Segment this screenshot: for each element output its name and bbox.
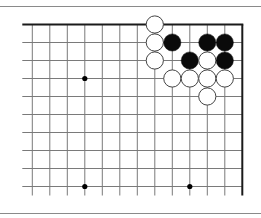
star-point-icon: [82, 76, 87, 81]
bottom-frame-rule: [0, 213, 261, 214]
white-stone-icon: [199, 70, 216, 87]
white-stone-icon: [216, 70, 233, 87]
white-stone-icon: [199, 52, 216, 69]
white-stone-icon: [146, 34, 163, 51]
white-stone-icon: [164, 70, 181, 87]
white-stone-icon: [181, 70, 198, 87]
go-board-diagram: [0, 0, 261, 218]
white-stone-icon: [199, 88, 216, 105]
white-stone-icon: [146, 16, 163, 33]
black-stone-icon: [216, 52, 233, 69]
black-stone-icon: [216, 34, 233, 51]
black-stone-icon: [199, 34, 216, 51]
white-stone-icon: [146, 52, 163, 69]
star-point-icon: [187, 184, 192, 189]
star-point-icon: [82, 184, 87, 189]
black-stone-icon: [164, 34, 181, 51]
black-stone-icon: [181, 52, 198, 69]
